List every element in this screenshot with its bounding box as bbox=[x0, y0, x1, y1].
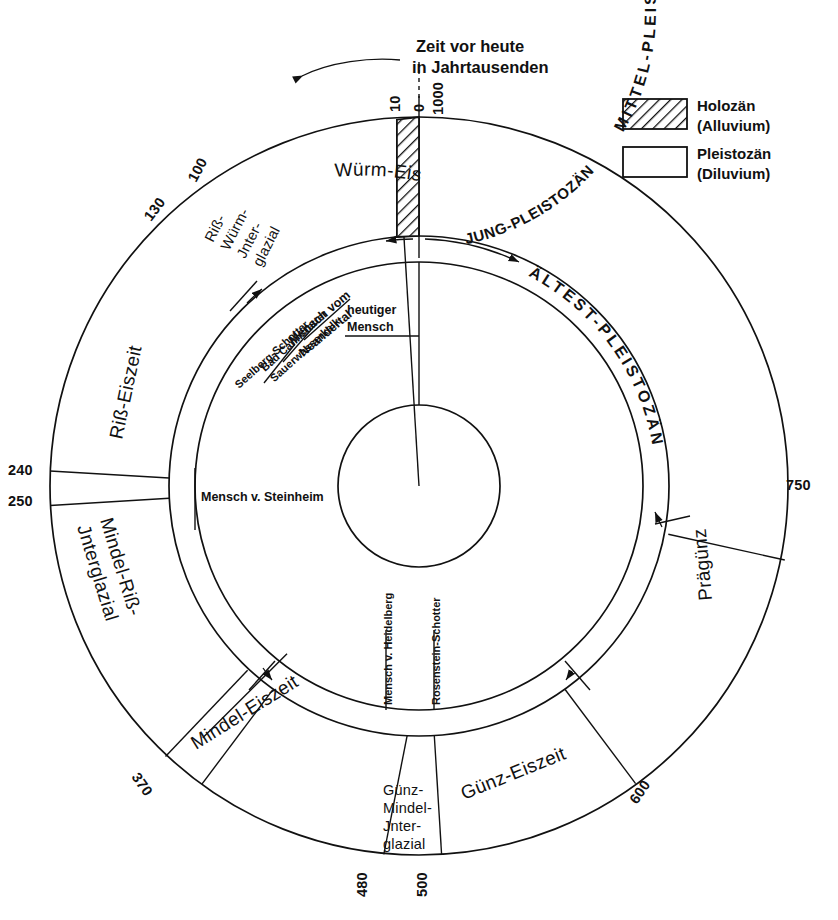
legend: Holozän (Alluvium) Pleistozän (Diluvium) bbox=[623, 97, 771, 182]
middle-band-boundary-marks bbox=[230, 218, 690, 690]
outer-segment-gunz-eiszeit: Günz-Eiszeit bbox=[458, 742, 569, 803]
outer-segment-pragunz: Prägünz bbox=[689, 528, 716, 602]
band-arrow-750-icon bbox=[655, 512, 662, 527]
outer-segment-riss-wurm-interglazial: Riß- Würm- Jnter- glazial bbox=[201, 197, 284, 268]
middle-segment-aeltest-pleistozaen: ÄLTEST-PLEISTOZÄN bbox=[526, 263, 666, 449]
gunz-mindel-line-2: Mindel- bbox=[383, 800, 432, 816]
outer-segment-mindel-eiszeit: Mindel-Eiszeit bbox=[187, 670, 302, 753]
band-arrow-600-icon bbox=[566, 671, 572, 680]
band-arrow-left-icon bbox=[386, 239, 413, 241]
outer-segment-pragunz-label: Prägünz bbox=[689, 528, 716, 602]
legend-sublabel-pleistozaen: (Diluvium) bbox=[697, 165, 770, 182]
outer-segment-wurm-eiszeit: Würm-Eiszeit bbox=[0, 0, 423, 185]
ring-tick-600: 600 bbox=[626, 777, 653, 807]
chart-title: Zeit vor heute in Jahrtausenden bbox=[412, 37, 549, 76]
heidelberg-label: Mensch v. Heidelberg bbox=[382, 593, 394, 705]
rosenstein-label: Rosenstein-Schotter bbox=[430, 597, 442, 705]
tick-label-0: 0 bbox=[411, 104, 427, 112]
middle-segment-jung-pleistozaen: JUNG-PLEISTOZÄN bbox=[463, 161, 597, 247]
legend-swatch-pleistozaen bbox=[623, 147, 687, 177]
legend-label-pleistozaen: Pleistozän bbox=[697, 145, 771, 162]
outer-segment-riss-eiszeit: Riß-Eiszeit bbox=[105, 343, 145, 441]
fossil-label-heutiger-mensch-line-1: heutiger bbox=[347, 303, 396, 317]
fossil-label-rosenstein-schotter: Rosenstein-Schotter bbox=[430, 597, 442, 705]
outer-segment-gunz-mindel-interglazial: Günz- Mindel- Jnter- glazial bbox=[383, 782, 432, 852]
title-line-1: Zeit vor heute bbox=[416, 37, 524, 55]
title-line-2: in Jahrtausenden bbox=[412, 58, 549, 76]
outer-segment-riss-eiszeit-label: Riß-Eiszeit bbox=[105, 343, 145, 441]
pleistocene-clock-diagram: Zeit vor heute in Jahrtausenden 10 0 100… bbox=[0, 0, 838, 920]
ring-tick-480: 480 bbox=[354, 872, 370, 897]
middle-segment-jung-pleistozaen-label: JUNG-PLEISTOZÄN bbox=[463, 161, 597, 247]
tick-label-10: 10 bbox=[387, 95, 403, 112]
steinheim-label: Mensch v. Steinheim bbox=[201, 490, 324, 504]
ring-tick-370: 370 bbox=[129, 770, 156, 799]
gunz-mindel-line-3: Jnter- bbox=[383, 818, 421, 834]
diagram-canvas: Zeit vor heute in Jahrtausenden 10 0 100… bbox=[0, 0, 838, 920]
ring-tick-240: 240 bbox=[8, 462, 33, 478]
fossil-label-mensch-v-steinheim: Mensch v. Steinheim bbox=[201, 490, 324, 504]
ring-tick-250: 250 bbox=[8, 493, 33, 509]
outer-segment-wurm-eiszeit-label: Würm-Eiszeit bbox=[0, 0, 423, 185]
outer-segment-gunz-eiszeit-label: Günz-Eiszeit bbox=[458, 742, 569, 803]
ring-tick-750: 750 bbox=[786, 477, 811, 493]
fossil-label-mensch-v-heidelberg: Mensch v. Heidelberg bbox=[382, 593, 394, 705]
gunz-mindel-line-1: Günz- bbox=[383, 782, 424, 798]
outer-segment-mindel-riss-interglazial: Mindel-Riß- Jnterglazial bbox=[73, 515, 146, 625]
ring-tick-100: 100 bbox=[185, 155, 211, 184]
legend-label-holozaen: Holozän bbox=[697, 97, 755, 114]
fossil-label-heutiger-mensch-line-2: Mensch bbox=[347, 320, 394, 334]
ring-tick-500: 500 bbox=[414, 872, 430, 897]
tick-label-1000: 1000 bbox=[430, 82, 446, 115]
top-scale-ticks: 10 0 1000 bbox=[387, 82, 446, 120]
gunz-mindel-line-4: glazial bbox=[383, 836, 426, 852]
legend-sublabel-holozaen: (Alluvium) bbox=[697, 117, 770, 134]
outer-segment-mindel-eiszeit-label: Mindel-Eiszeit bbox=[187, 670, 302, 753]
direction-arrow-icon bbox=[302, 59, 400, 76]
band-arrow-130-icon bbox=[247, 289, 262, 303]
middle-segment-aeltest-pleistozaen-label: ÄLTEST-PLEISTOZÄN bbox=[526, 263, 666, 449]
